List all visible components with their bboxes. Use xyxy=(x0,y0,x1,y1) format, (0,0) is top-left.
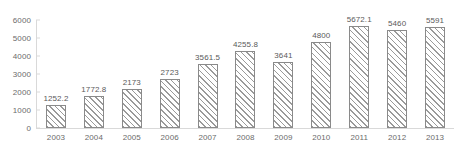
x-axis-line xyxy=(36,128,454,129)
x-axis-tick-label: 2010 xyxy=(302,133,340,142)
bar-value-label: 2173 xyxy=(123,78,141,87)
bar[interactable]: 1252.2 xyxy=(46,105,66,128)
bar-value-label: 4800 xyxy=(312,31,330,40)
bar-slot: 5672.1 xyxy=(340,20,378,128)
x-axis-tick-label: 2012 xyxy=(378,133,416,142)
x-axis-tick-label: 2003 xyxy=(37,133,75,142)
bar[interactable]: 2173 xyxy=(122,89,142,128)
bar-value-label: 5460 xyxy=(388,19,406,28)
bar-slot: 1252.2 xyxy=(37,20,75,128)
bar-value-label: 2723 xyxy=(161,68,179,77)
bar[interactable]: 4800 xyxy=(311,42,331,128)
bar-slot: 4800 xyxy=(302,20,340,128)
y-axis-tick-label: 2000 xyxy=(13,87,36,96)
x-axis-tick-label: 2009 xyxy=(264,133,302,142)
bar[interactable]: 2723 xyxy=(160,79,180,128)
bar-slot: 5460 xyxy=(378,20,416,128)
bar-slot: 1772.8 xyxy=(75,20,113,128)
bar-value-label: 1252.2 xyxy=(43,94,68,103)
bar-slot: 2173 xyxy=(113,20,151,128)
y-axis-tick-label: 5000 xyxy=(13,33,36,42)
bar-value-label: 3641 xyxy=(274,51,292,60)
bar[interactable]: 3641 xyxy=(273,62,293,128)
y-axis-tick-label: 6000 xyxy=(13,16,36,25)
bar[interactable]: 5460 xyxy=(387,30,407,128)
x-axis-tick-label: 2013 xyxy=(416,133,454,142)
bar-chart: 0100020003000400050006000 1252.21772.821… xyxy=(0,0,460,156)
x-axis-tick-label: 2005 xyxy=(113,133,151,142)
y-axis-tick-label: 4000 xyxy=(13,51,36,60)
y-axis-tick-label: 0 xyxy=(26,124,36,133)
y-axis-tick-label: 1000 xyxy=(13,106,36,115)
bar-value-label: 1772.8 xyxy=(81,85,106,94)
bar-slot: 3641 xyxy=(264,20,302,128)
x-axis-labels: 2003200420052006200720082009201020112012… xyxy=(37,133,454,142)
bar-slot: 3561.5 xyxy=(189,20,227,128)
bar[interactable]: 1772.8 xyxy=(84,96,104,128)
y-axis-tick-label: 3000 xyxy=(13,70,36,79)
x-axis-tick-label: 2004 xyxy=(75,133,113,142)
bar[interactable]: 3561.5 xyxy=(198,64,218,128)
x-axis-tick-label: 2006 xyxy=(151,133,189,142)
bar-value-label: 5591 xyxy=(426,16,444,25)
bar[interactable]: 5672.1 xyxy=(349,26,369,128)
x-axis-tick-label: 2011 xyxy=(340,133,378,142)
bar-slot: 2723 xyxy=(151,20,189,128)
x-axis-tick-label: 2008 xyxy=(227,133,265,142)
bar-slot: 5591 xyxy=(416,20,454,128)
x-axis-tick-label: 2007 xyxy=(189,133,227,142)
bar-slot: 4255.8 xyxy=(227,20,265,128)
bar-value-label: 4255.8 xyxy=(233,40,258,49)
bar-value-label: 3561.5 xyxy=(195,53,220,62)
bar[interactable]: 5591 xyxy=(425,27,445,128)
bar-value-label: 5672.1 xyxy=(347,15,372,24)
bar-series: 1252.21772.8217327233561.54255.836414800… xyxy=(37,20,454,128)
bar[interactable]: 4255.8 xyxy=(235,51,255,128)
